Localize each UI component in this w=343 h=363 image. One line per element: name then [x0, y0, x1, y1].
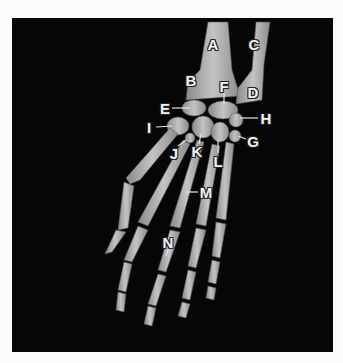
- label-g: G: [247, 134, 259, 149]
- label-n: N: [163, 235, 174, 250]
- label-k: K: [192, 144, 203, 159]
- label-m: M: [200, 185, 213, 200]
- label-e: E: [160, 101, 170, 116]
- label-a: A: [208, 37, 219, 52]
- label-l: L: [213, 154, 222, 169]
- label-h: H: [261, 111, 272, 126]
- label-j: J: [170, 146, 178, 161]
- label-i: I: [147, 120, 151, 135]
- label-b: B: [186, 73, 197, 88]
- hand-skeleton-figure: ACBFDEHIGJKLMN: [12, 18, 333, 352]
- label-f: F: [219, 79, 228, 94]
- label-c: C: [249, 37, 260, 52]
- label-d: D: [248, 85, 259, 100]
- hand-bones-illustration: [12, 18, 333, 352]
